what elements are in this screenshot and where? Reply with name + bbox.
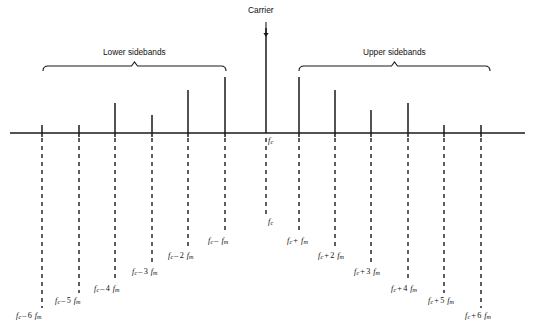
- tick-label-lsb-2: fc–2 fm: [168, 252, 194, 260]
- tick-label-usb-1: fc+ fm: [287, 237, 308, 245]
- tick-label-usb-6: fc+6 fm: [465, 312, 491, 320]
- tick-label-usb-3: fc+3 fm: [354, 268, 380, 276]
- carrier-arrow: [263, 22, 268, 37]
- upper-sidebands-title: Upper sidebands: [363, 48, 426, 56]
- tick-label-usb-2: fc+2 fm: [318, 252, 344, 260]
- upper-sidebands-bracket: [299, 62, 490, 71]
- carrier-arrow-head: [263, 33, 268, 37]
- tick-label-lsb-1: fc– fm: [208, 237, 228, 245]
- tick-label-usb-4: fc+4 fm: [391, 285, 417, 293]
- tick-label-lsb-3: fc–3 fm: [132, 268, 158, 276]
- tick-label-carrier: fc: [268, 218, 273, 226]
- lower-sidebands-title: Lower sidebands: [103, 48, 166, 56]
- carrier-axis-label-top: fc: [268, 137, 273, 145]
- tick-label-lsb-4: fc–4 fm: [94, 285, 120, 293]
- carrier-title: Carrier: [248, 6, 274, 14]
- tick-label-usb-5: fc+5 fm: [428, 297, 454, 305]
- diagram-canvas: [0, 0, 535, 327]
- spectral-lines-group: [42, 28, 481, 137]
- tick-label-lsb-5: fc–5 fm: [55, 297, 81, 305]
- dashed-leader-lines-group: [42, 138, 481, 308]
- spectrum-diagram: Carrier Lower sidebands Upper sidebands …: [0, 0, 535, 327]
- lower-sidebands-bracket: [43, 62, 226, 71]
- tick-label-lsb-6: fc–6 fm: [16, 312, 42, 320]
